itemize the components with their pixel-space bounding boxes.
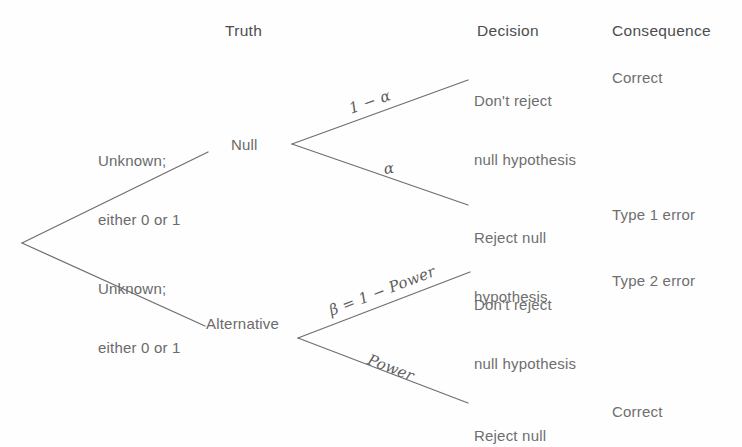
root-upper-branch-label-line1: Unknown; (98, 151, 181, 171)
consequence-leaf-4: Correct (612, 402, 663, 422)
decision-leaf-3-line2: null hypothesis (474, 354, 576, 374)
decision-leaf-2-line1: Reject null (474, 228, 548, 248)
decision-leaf-3-line1: Don't reject (474, 295, 576, 315)
root-lower-branch-label-line2: either 0 or 1 (98, 338, 181, 358)
root-upper-branch-label-line2: either 0 or 1 (98, 210, 181, 230)
consequence-leaf-2: Type 1 error (612, 205, 695, 225)
root-lower-branch-label-line1: Unknown; (98, 279, 181, 299)
truth-node-null: Null (231, 135, 258, 155)
column-header-truth: Truth (225, 21, 262, 41)
column-header-decision: Decision (477, 21, 539, 41)
truth-node-alternative: Alternative (206, 314, 279, 334)
root-lower-branch-label: Unknown; either 0 or 1 (98, 239, 181, 397)
decision-leaf-4: Reject null hypothesis (474, 386, 548, 447)
consequence-leaf-1: Correct (612, 68, 663, 88)
column-header-consequence: Consequence (612, 21, 711, 41)
decision-leaf-1: Don't reject null hypothesis (474, 51, 576, 209)
decision-leaf-4-line1: Reject null (474, 426, 548, 446)
decision-leaf-1-line2: null hypothesis (474, 150, 576, 170)
edge-null-to-reject (292, 144, 468, 205)
decision-leaf-1-line1: Don't reject (474, 91, 576, 111)
decision-tree-diagram: Truth Decision Consequence Unknown; eith… (0, 0, 742, 447)
consequence-leaf-3: Type 2 error (612, 271, 695, 291)
